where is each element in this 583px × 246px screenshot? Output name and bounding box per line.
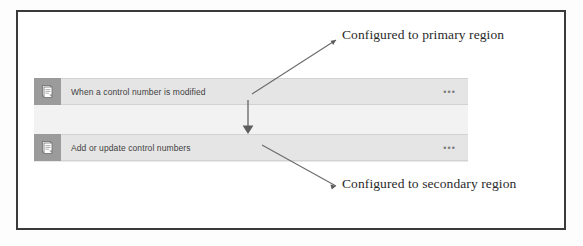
flow-node-action-overflow-menu[interactable]: ••• — [443, 145, 456, 151]
flow-node-trigger-label: When a control number is modified — [71, 87, 443, 97]
flow-node-trigger-overflow-menu[interactable]: ••• — [443, 89, 456, 95]
flow-node-action[interactable]: Add or update control numbers ••• — [34, 134, 468, 161]
document-page-icon — [34, 134, 61, 161]
document-page-icon — [34, 78, 61, 105]
screenshot-root: When a control number is modified ••• Ad… — [0, 0, 583, 246]
arrow-down-icon — [238, 100, 258, 136]
annotation-primary-region: Configured to primary region — [342, 27, 504, 43]
flow-node-action-label: Add or update control numbers — [71, 143, 443, 153]
annotation-secondary-region: Configured to secondary region — [342, 176, 516, 192]
